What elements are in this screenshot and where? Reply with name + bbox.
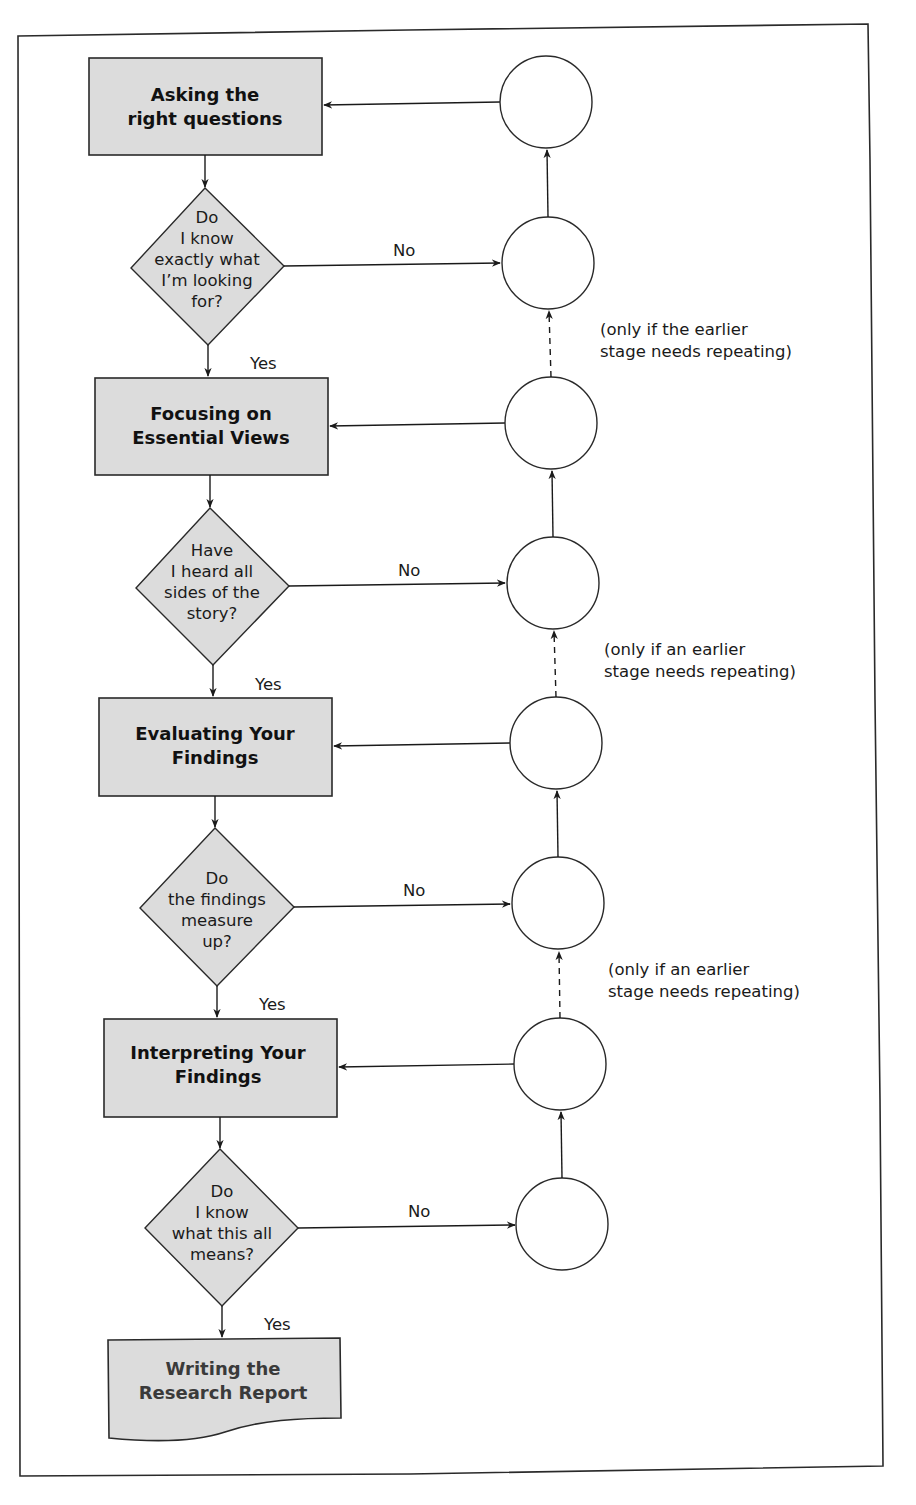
note-text: stage needs repeating)	[600, 342, 792, 361]
yes-label: Yes	[254, 675, 282, 694]
repeat-note-3: (only if an earlier stage needs repeatin…	[608, 960, 800, 1001]
stage-box-interpreting: Interpreting Your Findings	[104, 1019, 337, 1117]
stage-label: Essential Views	[132, 427, 289, 448]
no-label: No	[393, 241, 415, 260]
note-text: (only if an earlier	[608, 960, 749, 979]
decision-text: for?	[191, 292, 222, 311]
stage-box-focusing: Focusing on Essential Views	[95, 378, 328, 475]
stage-box-asking: Asking the right questions	[89, 58, 322, 155]
connector-circle	[512, 857, 604, 949]
connector-circle	[505, 377, 597, 469]
stage-label: Focusing on	[150, 403, 271, 424]
yes-label: Yes	[258, 995, 286, 1014]
note-text: stage needs repeating)	[608, 982, 800, 1001]
decision-text: measure	[181, 911, 253, 930]
connector-circles	[500, 56, 608, 1270]
decision-diamond-know-what-it-means: Do I know what this all means?	[145, 1149, 298, 1306]
decision-text: what this all	[172, 1224, 272, 1243]
final-stage-label: Research Report	[139, 1382, 308, 1403]
connector-circle	[502, 217, 594, 309]
final-stage-document: Writing the Research Report	[108, 1338, 341, 1440]
no-label: No	[408, 1202, 430, 1221]
stage-box-evaluating: Evaluating Your Findings	[99, 698, 332, 796]
yes-label: Yes	[263, 1315, 291, 1334]
repeat-note-1: (only if the earlier stage needs repeati…	[600, 320, 792, 361]
yes-label: Yes	[249, 354, 277, 373]
decision-text: Do	[196, 208, 219, 227]
stage-label: Evaluating Your	[135, 723, 295, 744]
connector-circle	[500, 56, 592, 148]
note-text: (only if the earlier	[600, 320, 748, 339]
decision-diamond-findings-measure-up: Do the findings measure up?	[140, 828, 294, 986]
decision-text: the findings	[168, 890, 266, 909]
stage-label: Interpreting Your	[130, 1042, 305, 1063]
stage-label: Asking the	[151, 84, 259, 105]
connector-circle	[507, 537, 599, 629]
decision-text: story?	[187, 604, 237, 623]
decision-diamond-heard-all-sides: Have I heard all sides of the story?	[136, 508, 289, 665]
decision-text: Have	[191, 541, 233, 560]
repeat-note-2: (only if an earlier stage needs repeatin…	[604, 640, 796, 681]
decision-text: I heard all	[171, 562, 253, 581]
decision-diamond-know-what-looking-for: Do I know exactly what I’m looking for?	[131, 188, 284, 345]
connector-circle	[510, 697, 602, 789]
research-process-flowchart: Asking the right questions Focusing on E…	[0, 0, 916, 1505]
decision-text: exactly what	[154, 250, 260, 269]
no-label: No	[403, 881, 425, 900]
stage-label: Findings	[175, 1066, 262, 1087]
decision-text: Do	[211, 1182, 234, 1201]
connector-circle	[516, 1178, 608, 1270]
stage-label: right questions	[128, 108, 283, 129]
decision-text: means?	[190, 1245, 254, 1264]
decision-text: up?	[202, 932, 232, 951]
decision-text: I’m looking	[161, 271, 252, 290]
connector-circle	[514, 1018, 606, 1110]
note-text: (only if an earlier	[604, 640, 745, 659]
no-label: No	[398, 561, 420, 580]
stage-label: Findings	[172, 747, 259, 768]
decision-text: Do	[206, 869, 229, 888]
decision-text: sides of the	[164, 583, 260, 602]
decision-text: I know	[195, 1203, 249, 1222]
final-stage-label: Writing the	[166, 1358, 281, 1379]
note-text: stage needs repeating)	[604, 662, 796, 681]
decision-text: I know	[180, 229, 234, 248]
